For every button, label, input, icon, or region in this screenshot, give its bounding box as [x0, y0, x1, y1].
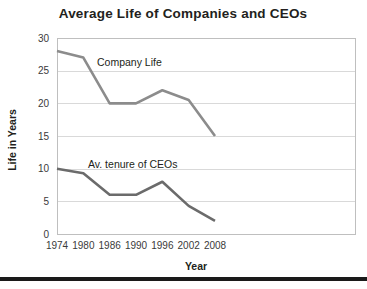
chart-title: Average Life of Companies and CEOs [59, 6, 308, 21]
x-tick-label: 1974 [46, 240, 69, 251]
y-tick-label: 0 [43, 229, 49, 240]
y-tick-label: 25 [38, 65, 50, 76]
x-tick-label: 2002 [178, 240, 201, 251]
x-tick-label: 1990 [125, 240, 148, 251]
y-tick-label: 10 [38, 163, 50, 174]
x-tick-label: 1996 [151, 240, 174, 251]
series-annotation-label: Av. tenure of CEOs [88, 158, 178, 170]
series-annotation-label: Company Life [97, 56, 162, 68]
y-tick-label: 20 [38, 98, 50, 109]
x-tick-label: 1986 [99, 240, 122, 251]
footer-divider [0, 277, 367, 281]
y-tick-label: 30 [38, 33, 50, 44]
x-axis-tick-labels: 1974198019861990199620022008 [46, 240, 227, 251]
x-tick-label: 1980 [72, 240, 95, 251]
y-tick-label: 15 [38, 131, 50, 142]
y-axis-title: Life in Years [6, 109, 18, 171]
line-chart: Average Life of Companies and CEOs 05101… [0, 0, 367, 289]
x-axis-title: Year [185, 260, 207, 272]
x-tick-label: 2008 [204, 240, 227, 251]
chart-container: Average Life of Companies and CEOs 05101… [0, 0, 367, 289]
y-tick-label: 5 [43, 196, 49, 207]
